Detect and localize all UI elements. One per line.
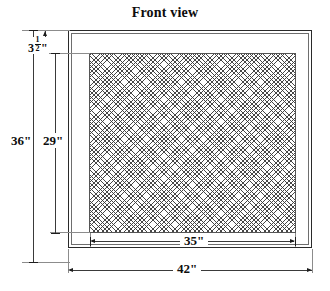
frame-top-whole: 3 [28,41,34,55]
dimension-tick-panel-width-left [90,237,91,246]
dimension-label-panel-height: 29" [42,133,64,148]
dimension-label-overall-height: 36" [10,133,32,148]
panel-ledge-right [295,53,296,233]
dimension-tick-overall-height-bottom [29,262,38,263]
page-title: Front view [0,5,330,21]
frame-top-denominator: 2 [35,45,41,53]
dimension-tick-overall-height-top [29,30,38,31]
dimension-tick-panel-width-right [295,237,296,246]
frame-top-inch-mark: " [41,41,48,55]
mesh-panel [90,54,295,232]
extension-line-frame-right [312,249,313,273]
dimension-line-overall-height [33,31,34,262]
dimension-tick-panel-height-bottom [51,233,60,234]
dimension-label-panel-width: 35" [180,234,208,247]
dimension-label-overall-width: 42" [173,262,201,275]
dimension-arrow-frame-top-up [43,31,47,36]
dimension-arrow-overall-width-right [307,268,312,272]
technical-drawing-canvas: Front view 36" 29" 312" 35" [0,0,330,291]
dimension-tick-panel-height-top [51,53,60,54]
frame-top-fraction: 12 [35,36,41,53]
dimension-arrow-overall-width-left [68,268,73,272]
dimension-label-frame-top: 312" [27,37,49,54]
